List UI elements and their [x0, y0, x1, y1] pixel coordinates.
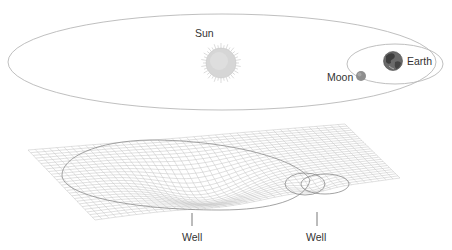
- moon-icon: [356, 71, 366, 81]
- diagram-canvas: [0, 0, 452, 250]
- spacetime-grid: [28, 124, 400, 220]
- sun-label: Sun: [195, 27, 214, 39]
- well-right-label: Well: [306, 231, 326, 243]
- well-left-label: Well: [182, 231, 202, 243]
- gravity-diagram: Sun Earth Moon Well Well: [0, 0, 452, 250]
- earth-label: Earth: [407, 55, 432, 67]
- sun-icon: [201, 43, 240, 83]
- earth-globe-icon: [384, 52, 403, 71]
- moon-label: Moon: [327, 71, 353, 83]
